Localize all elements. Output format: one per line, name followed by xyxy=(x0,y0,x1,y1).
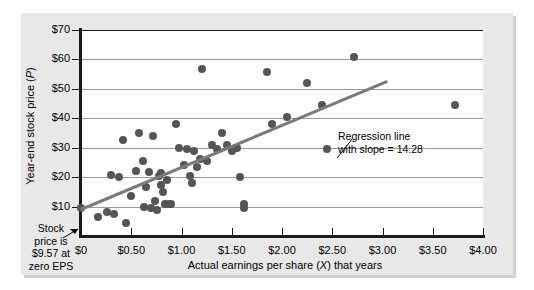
regression-annotation-line-1: Regression line xyxy=(338,130,423,143)
intercept-annotation-line-3: $9.57 at xyxy=(22,247,80,260)
y-axis-title: Year-end stock price (P) xyxy=(24,36,36,216)
y-axis-title-prefix: Year-end stock price ( xyxy=(24,78,36,185)
regression-annotation-line-2: with slope = 14.28 xyxy=(338,143,423,156)
x-axis-title: Actual earnings per share (X) that years xyxy=(90,259,480,271)
intercept-annotation: Stock price is $9.57 at zero EPS xyxy=(22,222,80,272)
regression-annotation: Regression line with slope = 14.28 xyxy=(338,130,423,156)
intercept-annotation-line-4: zero EPS xyxy=(22,260,80,273)
leader-lines xyxy=(0,0,534,290)
x-axis-title-suffix: ) that years xyxy=(327,259,382,271)
y-axis-title-variable: P xyxy=(24,71,36,78)
scatter-plot-figure: $10$20$30$40$50$60$70 $0$0.50$1.00$1.50$… xyxy=(0,0,534,290)
intercept-annotation-line-1: Stock xyxy=(22,222,80,235)
x-axis-title-prefix: Actual earnings per share ( xyxy=(188,259,320,271)
intercept-annotation-line-2: price is xyxy=(22,235,80,248)
y-axis-title-suffix: ) xyxy=(24,67,36,71)
